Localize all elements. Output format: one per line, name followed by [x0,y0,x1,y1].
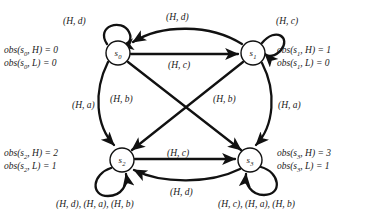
edge-label-s3-self: (H, c), (H, a), (H, b) [218,199,295,211]
observation-block-s1: obs(s1, H) = 1 obs(s1, L) = 0 [277,45,331,71]
edge-label-s1-to-s3: (H, a) [278,100,301,112]
observation-s0-low: obs(s0, L) = 0 [4,58,58,71]
edge-label-s1-self: (H, c) [276,16,298,28]
node-label-s0: s0 [115,48,122,60]
edge-label-s1-to-s2: (H, b) [213,94,236,106]
observation-s2-high: obs(s2, H) = 2 [4,148,58,161]
edge-label-s3-to-s2: (H, d) [170,187,193,199]
observation-s1-high: obs(s1, H) = 1 [277,45,331,58]
node-label-s1: s1 [250,48,257,60]
node-label-s2: s2 [119,155,126,167]
edge-label-s0-to-s3: (H, b) [110,94,133,106]
observation-s2-low: obs(s2, L) = 1 [4,161,58,174]
observation-block-s0: obs(s0, H) = 0 obs(s0, L) = 0 [4,45,58,71]
edge-s3-to-s2 [134,169,240,180]
edge-label-s1-to-s0: (H, d) [166,12,189,24]
observation-block-s2: obs(s2, H) = 2 obs(s2, L) = 1 [4,148,58,174]
observation-s3-low: obs(s3, L) = 1 [277,161,331,174]
observation-s1-low: obs(s1, L) = 0 [277,58,331,71]
observation-s3-high: obs(s3, H) = 3 [277,148,331,161]
edge-s1-to-s3 [256,63,272,145]
node-label-s3: s3 [247,155,254,167]
observation-block-s3: obs(s3, H) = 3 obs(s3, L) = 1 [277,148,331,174]
edge-s0-to-s3 [128,62,241,150]
state-diagram-canvas: s0 s1 s2 s3 obs(s0, H) = 0 obs(s0, L) = … [0,0,372,223]
edge-label-s2-self: (H, d), (H, a), (H, b) [56,199,134,211]
edge-label-s0-self: (H, d) [63,16,86,28]
edge-s1-to-s0 [133,29,242,44]
edge-label-s0-to-s2: (H, a) [72,100,95,112]
edge-label-s2-to-s3: (H, c) [167,148,189,160]
edge-s1-to-s2 [132,62,243,150]
observation-s0-high: obs(s0, H) = 0 [4,45,58,58]
edge-label-s0-to-s1: (H, c) [168,60,190,72]
